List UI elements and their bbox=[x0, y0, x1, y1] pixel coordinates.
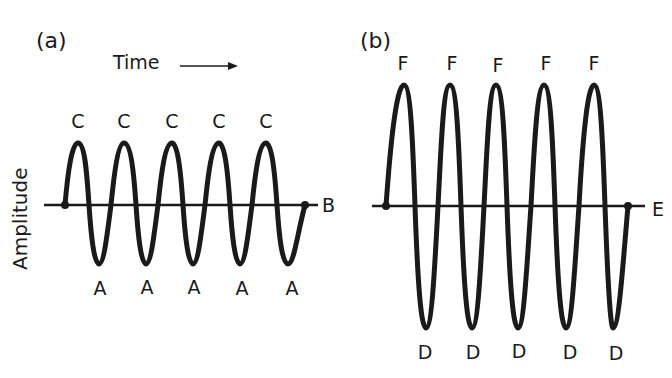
panel-a-axis-end-label: B bbox=[322, 196, 335, 215]
panel-b-peak-label: F bbox=[398, 54, 409, 73]
time-arrow-head bbox=[228, 62, 238, 70]
panel-a-wave bbox=[65, 143, 305, 264]
panel-a-trough-label: A bbox=[94, 279, 107, 298]
panel-b-tag: (b) bbox=[360, 30, 391, 52]
panel-b-start-dot bbox=[382, 202, 390, 210]
panel-b-peak-label: F bbox=[589, 54, 600, 73]
panel-a-trough-label: A bbox=[141, 278, 154, 297]
panel-b-trough-label: D bbox=[609, 344, 624, 363]
panel-a-trough-label: A bbox=[286, 279, 299, 298]
panel-a-peak-label: C bbox=[212, 112, 225, 131]
panel-b-peak-label: F bbox=[493, 56, 504, 75]
panel-b-trough-label: D bbox=[418, 343, 433, 362]
waveform-diagram bbox=[0, 0, 672, 378]
panel-a-trough-label: A bbox=[188, 278, 201, 297]
panel-b-trough-label: D bbox=[466, 343, 481, 362]
panel-b-trough-label: D bbox=[563, 343, 578, 362]
panel-b-peak-label: F bbox=[541, 54, 552, 73]
panel-a-tag: (a) bbox=[36, 30, 67, 52]
panel-a-peak-label: C bbox=[71, 112, 84, 131]
time-axis-label: Time bbox=[113, 53, 160, 72]
panel-a-start-dot bbox=[61, 201, 69, 209]
amplitude-axis-label: Amplitude bbox=[10, 168, 30, 271]
panel-b-end-dot bbox=[624, 202, 632, 210]
panel-a-end-dot bbox=[301, 201, 309, 209]
panel-a-trough-label: A bbox=[236, 279, 249, 298]
panel-b-trough-label: D bbox=[512, 342, 527, 361]
panel-a-peak-label: C bbox=[117, 112, 130, 131]
panel-a-peak-label: C bbox=[165, 112, 178, 131]
panel-b-peak-label: F bbox=[447, 54, 458, 73]
panel-a-peak-label: C bbox=[259, 112, 272, 131]
panel-b-axis-end-label: E bbox=[652, 200, 664, 219]
